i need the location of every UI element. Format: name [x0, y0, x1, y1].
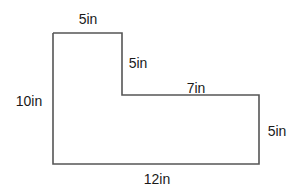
top-edge-label: 5in: [79, 12, 98, 26]
right-edge-label: 5in: [268, 124, 287, 138]
l-shape-edges: [53, 33, 259, 164]
notch-vertical-label: 5in: [129, 56, 148, 70]
l-shape-outline: [0, 0, 299, 195]
left-edge-label: 10in: [16, 94, 42, 108]
bottom-edge-label: 12in: [144, 172, 170, 186]
notch-horizontal-label: 7in: [187, 81, 206, 95]
